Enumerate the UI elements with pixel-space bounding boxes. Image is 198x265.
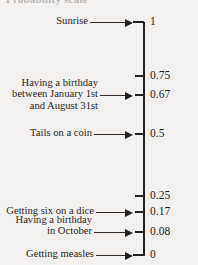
tick-mark-0-67 (135, 94, 144, 96)
arrowhead-icon-sunrise (125, 19, 133, 27)
tick-label-1: 1 (150, 16, 156, 28)
leader-line-tails-on-a-coin (94, 134, 125, 135)
probability-scale-figure: Probability scale 10.750.670.50.250.170.… (0, 0, 198, 265)
arrowhead-icon-birthday-jan-to-aug (125, 92, 133, 100)
leader-line-sunrise (90, 22, 125, 23)
event-label-line: and August 31st (12, 100, 98, 112)
tick-mark-0 (133, 254, 144, 256)
tick-label-0-67: 0.67 (150, 89, 170, 101)
event-label-line: in October (16, 225, 93, 237)
event-label-line: between January 1st (12, 88, 98, 100)
tick-mark-0-17 (135, 211, 144, 213)
scale-axis-line (143, 22, 145, 256)
event-label-line: Sunrise (56, 15, 88, 27)
figure-heading: Probability scale (6, 0, 88, 5)
tick-label-0-17: 0.17 (150, 206, 170, 218)
tick-mark-0-75 (135, 75, 144, 77)
event-label-line: Getting measles (26, 248, 94, 260)
event-label-birthday-in-october: Having a birthdayin October (16, 214, 93, 237)
event-label-line: Having a birthday (16, 214, 93, 226)
tick-mark-0-25 (135, 195, 144, 197)
leader-line-birthday-in-october (94, 232, 125, 233)
leader-line-birthday-jan-to-aug (100, 95, 125, 96)
event-label-tails-on-a-coin: Tails on a coin (30, 127, 92, 139)
arrowhead-icon-getting-six-on-a-dice (125, 209, 133, 217)
tick-label-0-08: 0.08 (150, 226, 170, 238)
event-label-line: Having a birthday (12, 77, 98, 89)
event-label-getting-measles: Getting measles (26, 248, 94, 260)
leader-line-getting-six-on-a-dice (96, 212, 125, 213)
tick-label-0-25: 0.25 (150, 190, 170, 202)
tick-mark-1 (133, 21, 144, 23)
tick-label-0-75: 0.75 (150, 70, 170, 82)
arrowhead-icon-birthday-in-october (125, 229, 133, 237)
arrowhead-icon-tails-on-a-coin (125, 131, 133, 139)
arrowhead-icon-getting-measles (125, 252, 133, 260)
tick-mark-0-5 (135, 133, 144, 135)
tick-label-0-5: 0.5 (150, 128, 164, 140)
event-label-sunrise: Sunrise (56, 15, 88, 27)
event-label-birthday-jan-to-aug: Having a birthdaybetween January 1stand … (12, 77, 98, 112)
event-label-line: Tails on a coin (30, 127, 92, 139)
tick-mark-0-08 (135, 231, 144, 233)
leader-line-getting-measles (96, 255, 125, 256)
tick-label-0: 0 (150, 249, 156, 261)
